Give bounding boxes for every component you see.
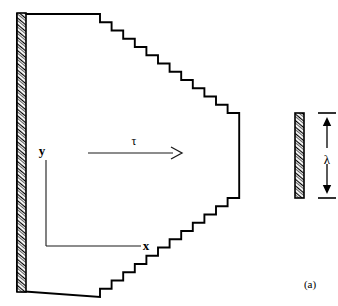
y-axis-label: y bbox=[39, 143, 46, 158]
x-axis-label: x bbox=[143, 238, 150, 253]
figure-container: τ y x λ (a) bbox=[0, 0, 338, 306]
tau-label: τ bbox=[132, 134, 137, 148]
left-hatched-wall bbox=[17, 13, 26, 292]
lambda-label: λ bbox=[324, 152, 331, 167]
right-hatched-wall bbox=[295, 113, 304, 198]
stepped-wedge-diagram: τ y x λ (a) bbox=[0, 0, 338, 306]
figure-caption: (a) bbox=[304, 278, 317, 291]
